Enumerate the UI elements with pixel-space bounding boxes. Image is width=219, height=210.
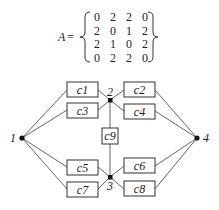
component-c2: c2 — [124, 82, 155, 97]
component-label: c4 — [134, 105, 145, 119]
component-c4: c4 — [124, 104, 155, 119]
component-label: c7 — [77, 183, 89, 197]
matrix-equals: = — [67, 30, 74, 44]
component-label: c8 — [134, 182, 145, 196]
component-label: c5 — [77, 161, 88, 175]
matrix-label: A — [57, 30, 66, 44]
component-c9: c9 — [102, 128, 118, 144]
component-label: c1 — [77, 83, 88, 97]
matrix-cell: 2 — [110, 10, 116, 24]
matrix-cell: 2 — [142, 24, 148, 38]
component-label: c2 — [134, 83, 145, 97]
component-c5: c5 — [67, 160, 98, 175]
matrix-cell: 0 — [142, 10, 148, 24]
component-label: c9 — [104, 129, 115, 143]
matrix-cell: 0 — [142, 51, 148, 65]
matrix-cell: 0 — [126, 37, 132, 51]
matrix-cell: 1 — [110, 37, 116, 51]
component-c7: c7 — [67, 182, 98, 197]
adjacency-matrix: A = 0 2 2 0 2 0 1 2 2 1 0 2 0 2 2 0 — [57, 10, 158, 65]
matrix-cell: 1 — [126, 24, 132, 38]
matrix-cell: 2 — [94, 24, 100, 38]
component-c8: c8 — [124, 181, 155, 196]
component-c6: c6 — [124, 158, 155, 173]
component-label: c3 — [77, 104, 88, 118]
node-label-2: 2 — [107, 85, 113, 99]
node-label-3: 3 — [106, 179, 113, 193]
left-brace — [80, 12, 90, 62]
matrix-cell: 2 — [110, 51, 116, 65]
matrix-cell: 2 — [126, 51, 132, 65]
matrix-cell: 0 — [110, 24, 116, 38]
component-c3: c3 — [67, 103, 98, 118]
node-4 — [194, 135, 199, 140]
component-c1: c1 — [67, 82, 98, 97]
matrix-cell: 0 — [94, 10, 100, 24]
network-diagram: A = 0 2 2 0 2 0 1 2 2 1 0 2 0 2 2 0 — [0, 0, 219, 210]
node-label-4: 4 — [203, 131, 209, 145]
matrix-cell: 2 — [94, 37, 100, 51]
right-brace — [148, 12, 158, 62]
matrix-cell: 0 — [94, 51, 100, 65]
node-label-1: 1 — [10, 131, 16, 145]
matrix-cell: 2 — [126, 10, 132, 24]
matrix-cell: 2 — [142, 37, 148, 51]
node-1 — [19, 135, 24, 140]
component-label: c6 — [134, 159, 145, 173]
